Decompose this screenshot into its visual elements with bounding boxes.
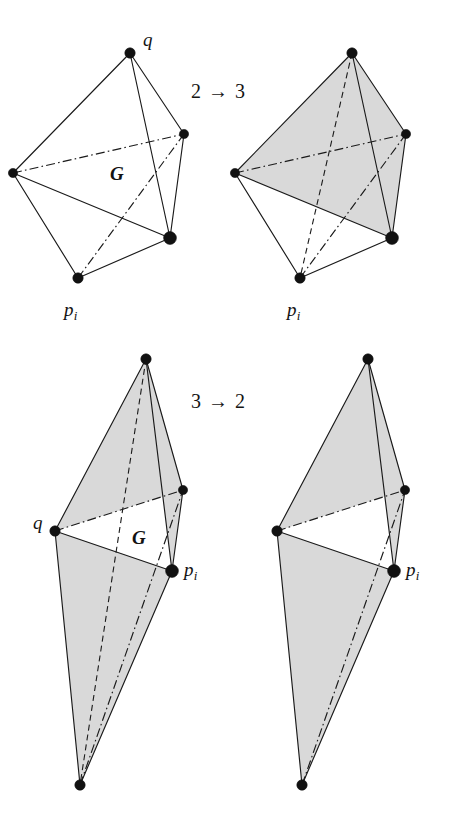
vertex-base <box>386 232 399 245</box>
vertex-right <box>178 485 187 494</box>
panel-top-left <box>8 48 188 283</box>
vertex-label-pi-bottom-left: pi <box>184 560 197 582</box>
pi-subscript-bottom-right: i <box>416 568 420 583</box>
vertex-q <box>347 48 357 58</box>
vertex-left <box>230 168 239 177</box>
vertex-label-pi-top-right: pi <box>287 300 300 322</box>
edge-q-right <box>130 53 184 134</box>
flip-3-to-2-label: 3 → 2 <box>191 391 246 411</box>
vertex-label-q-top-left: q <box>143 30 153 49</box>
vertex-pi <box>388 565 401 578</box>
panel-top-right <box>230 48 410 283</box>
region-label-G-bottom-left: G <box>132 528 146 547</box>
face-left-base-pi <box>13 173 170 278</box>
flip-2-to-3-label: 2 → 3 <box>191 81 246 101</box>
edge-left-base <box>13 173 170 238</box>
vertex-right <box>400 485 409 494</box>
panel-bottom-left <box>50 354 188 790</box>
face-q-bottom-pi <box>277 531 394 785</box>
edge-q-left <box>13 53 130 173</box>
vertex-pi <box>166 565 179 578</box>
pi-subscript-top-right: i <box>297 308 301 323</box>
pi-base-bottom-right: p <box>406 559 416 580</box>
vertex-pi <box>295 273 305 283</box>
vertex-top <box>141 354 151 364</box>
pi-subscript-top-left: i <box>74 308 78 323</box>
vertex-label-pi-bottom-right: pi <box>406 560 419 582</box>
vertex-label-pi-top-left: pi <box>64 300 77 322</box>
vertex-label-q-bottom-left: q <box>33 513 43 532</box>
figure-root: .face{fill:#d9d9d9;} .face-none{fill:non… <box>0 0 455 821</box>
pi-base-bottom-left: p <box>184 559 194 580</box>
vertex-left <box>8 168 17 177</box>
vertex-q <box>125 48 135 58</box>
pi-base-top-right: p <box>287 299 297 320</box>
pi-subscript-bottom-left: i <box>194 568 198 583</box>
vertex-right <box>401 129 410 138</box>
vertex-bottom <box>75 780 85 790</box>
region-label-G-top-left: G <box>110 164 124 183</box>
face-q-right-base <box>130 53 184 238</box>
edge-pi-base <box>300 238 392 278</box>
vertex-q <box>50 526 60 536</box>
vertex-q <box>272 526 282 536</box>
edge-left-right-dashdot <box>13 134 184 173</box>
vertex-pi <box>73 273 83 283</box>
face-q-left-right <box>13 53 184 173</box>
panel-bottom-right <box>272 354 410 790</box>
vertex-base <box>164 232 177 245</box>
vertex-right <box>179 129 188 138</box>
edge-left-pi <box>13 173 78 278</box>
pi-base-top-left: p <box>64 299 74 320</box>
vertex-top <box>363 354 373 364</box>
vertex-bottom <box>297 780 307 790</box>
